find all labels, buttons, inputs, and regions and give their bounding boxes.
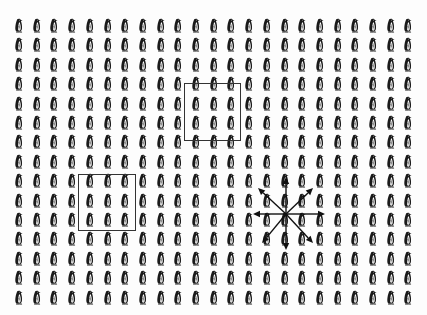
penguin-icon <box>244 290 254 305</box>
penguin-icon <box>280 115 290 130</box>
penguin-icon <box>262 251 272 266</box>
penguin-icon <box>138 290 148 305</box>
penguin-icon <box>350 173 360 188</box>
penguin-icon <box>297 37 307 52</box>
penguin-icon <box>156 18 166 33</box>
penguin-icon <box>226 290 236 305</box>
penguin-icon <box>226 154 236 169</box>
penguin-icon <box>403 290 413 305</box>
penguin-icon <box>244 37 254 52</box>
penguin-icon <box>67 18 77 33</box>
penguin-icon <box>67 76 77 91</box>
penguin-icon <box>226 115 236 130</box>
penguin-icon <box>67 96 77 111</box>
penguin-icon <box>103 251 113 266</box>
penguin-icon <box>315 134 325 149</box>
penguin-icon <box>191 173 201 188</box>
penguin-icon <box>280 18 290 33</box>
penguin-icon <box>120 270 130 285</box>
penguin-icon <box>32 37 42 52</box>
penguin-icon <box>280 134 290 149</box>
penguin-icon <box>297 76 307 91</box>
penguin-icon <box>67 57 77 72</box>
penguin-icon <box>103 115 113 130</box>
penguin-icon <box>244 134 254 149</box>
penguin-icon <box>85 37 95 52</box>
penguin-icon <box>14 134 24 149</box>
penguin-icon <box>315 212 325 227</box>
penguin-icon <box>280 57 290 72</box>
penguin-icon <box>226 270 236 285</box>
penguin-icon <box>156 57 166 72</box>
penguin-icon <box>209 154 219 169</box>
penguin-icon <box>244 173 254 188</box>
penguin-icon <box>386 231 396 246</box>
penguin-icon <box>32 290 42 305</box>
penguin-icon <box>32 251 42 266</box>
penguin-icon <box>156 270 166 285</box>
penguin-icon <box>209 251 219 266</box>
penguin-icon <box>85 134 95 149</box>
penguin-icon <box>280 154 290 169</box>
penguin-icon <box>403 76 413 91</box>
penguin-icon <box>244 212 254 227</box>
penguin-icon <box>49 57 59 72</box>
penguin-icon <box>315 270 325 285</box>
penguin-icon <box>368 96 378 111</box>
penguin-icon <box>403 18 413 33</box>
penguin-icon <box>333 57 343 72</box>
penguin-icon <box>85 212 95 227</box>
penguin-icon <box>191 193 201 208</box>
penguin-icon <box>14 57 24 72</box>
penguin-icon <box>191 231 201 246</box>
penguin-icon <box>67 231 77 246</box>
penguin-icon <box>49 173 59 188</box>
penguin-icon <box>262 173 272 188</box>
penguin-icon <box>85 115 95 130</box>
penguin-icon <box>156 154 166 169</box>
penguin-icon <box>120 37 130 52</box>
penguin-icon <box>156 134 166 149</box>
penguin-icon <box>297 57 307 72</box>
penguin-icon <box>333 154 343 169</box>
penguin-icon <box>138 231 148 246</box>
penguin-icon <box>209 37 219 52</box>
penguin-icon <box>49 212 59 227</box>
penguin-icon <box>226 193 236 208</box>
penguin-icon <box>297 154 307 169</box>
penguin-icon <box>85 290 95 305</box>
penguin-icon <box>32 115 42 130</box>
penguin-icon <box>280 251 290 266</box>
penguin-icon <box>368 154 378 169</box>
penguin-icon <box>67 290 77 305</box>
penguin-icon <box>49 290 59 305</box>
penguin-icon <box>32 212 42 227</box>
penguin-icon <box>262 290 272 305</box>
penguin-icon <box>315 115 325 130</box>
penguin-icon <box>14 96 24 111</box>
penguin-icon <box>315 96 325 111</box>
penguin-icon <box>49 37 59 52</box>
penguin-icon <box>156 231 166 246</box>
penguin-icon <box>209 115 219 130</box>
penguin-icon <box>209 134 219 149</box>
penguin-icon <box>138 173 148 188</box>
penguin-icon <box>226 37 236 52</box>
penguin-icon <box>386 115 396 130</box>
penguin-icon <box>103 134 113 149</box>
penguin-icon <box>280 96 290 111</box>
penguin-icon <box>156 193 166 208</box>
penguin-icon <box>103 37 113 52</box>
penguin-icon <box>103 290 113 305</box>
penguin-icon <box>350 134 360 149</box>
penguin-icon <box>209 173 219 188</box>
penguin-icon <box>14 212 24 227</box>
penguin-icon <box>403 154 413 169</box>
penguin-icon <box>350 96 360 111</box>
penguin-icon <box>244 18 254 33</box>
penguin-icon <box>262 231 272 246</box>
penguin-icon <box>103 154 113 169</box>
penguin-icon <box>262 154 272 169</box>
penguin-icon <box>209 18 219 33</box>
penguin-icon <box>67 270 77 285</box>
